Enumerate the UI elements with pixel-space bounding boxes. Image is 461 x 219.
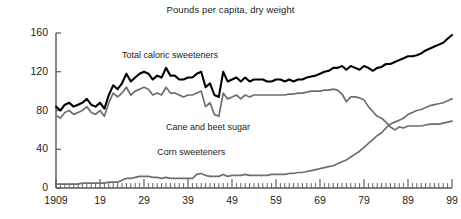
series-line-corn-sweeteners xyxy=(56,99,452,184)
x-axis-tick-label: 59 xyxy=(256,194,296,206)
y-axis-tick-label: 120 xyxy=(14,65,48,77)
y-axis-tick-label: 40 xyxy=(14,142,48,154)
sweetener-consumption-chart: Pounds per capita, dry weight 0408012016… xyxy=(0,0,461,219)
series-label-corn-sweeteners: Corn sweeteners xyxy=(157,147,225,157)
y-axis-tick-label: 80 xyxy=(14,104,48,116)
x-axis-tick-label: 49 xyxy=(212,194,252,206)
x-axis-tick-label: 19 xyxy=(80,194,120,206)
x-axis-tick-label: 69 xyxy=(300,194,340,206)
chart-plot-area xyxy=(0,0,461,219)
x-axis-tick-label: 99 xyxy=(432,194,461,206)
y-axis-tick-label: 160 xyxy=(14,26,48,38)
x-axis-tick-label: 29 xyxy=(124,194,164,206)
y-axis-tick-label: 0 xyxy=(14,181,48,193)
x-axis-tick-label: 79 xyxy=(344,194,384,206)
series-label-cane-and-beet-sugar: Cane and beet sugar xyxy=(166,122,250,132)
x-axis-tick-label: 89 xyxy=(388,194,428,206)
x-axis-tick-label: 39 xyxy=(168,194,208,206)
x-axis-tick-label: 1909 xyxy=(36,194,76,206)
series-line-total-caloric-sweeteners xyxy=(56,35,452,111)
series-label-total-caloric-sweeteners: Total caloric sweeteners xyxy=(122,50,218,60)
